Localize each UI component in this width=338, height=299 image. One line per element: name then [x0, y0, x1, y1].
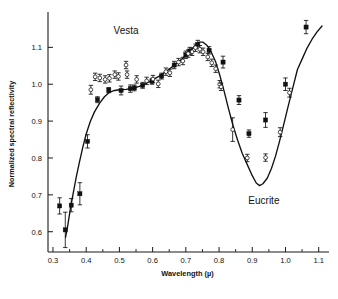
data-point-open	[151, 77, 155, 81]
data-point-open	[156, 82, 160, 86]
data-point-open	[125, 73, 129, 77]
data-point-filled	[85, 139, 89, 143]
data-point-open	[194, 46, 198, 50]
data-point-filled	[63, 228, 67, 232]
data-point-filled	[304, 25, 308, 29]
data-point-filled	[107, 88, 111, 92]
y-axis-title: Normalized spectral reflectivity	[7, 81, 16, 187]
data-point-open	[93, 75, 97, 79]
data-point-open	[117, 75, 121, 79]
data-point-open	[264, 156, 268, 160]
x-tick-label: 0.6	[147, 256, 158, 265]
series-vesta	[57, 20, 308, 247]
x-axis-title: Wavelength (µ)	[161, 269, 214, 278]
data-point-filled	[263, 118, 267, 122]
annotation-group: VestaEucrite	[114, 25, 280, 206]
data-point-open	[186, 52, 190, 56]
data-point-filled	[128, 87, 132, 91]
data-point-open	[181, 59, 185, 63]
data-point-filled	[221, 60, 225, 64]
x-tick-label: 1.0	[280, 256, 291, 265]
data-point-filled	[172, 63, 176, 67]
y-tick-label: 1.0	[31, 80, 42, 89]
data-point-open	[231, 128, 235, 132]
annotation-eucrite-label: Eucrite	[248, 195, 280, 206]
data-point-filled	[159, 74, 163, 78]
x-tick-label: 0.5	[114, 256, 125, 265]
data-point-filled	[247, 132, 251, 136]
data-point-filled	[119, 88, 123, 92]
eucrite-fit-curve	[66, 26, 322, 237]
x-tick-label: 1.1	[313, 256, 324, 265]
series-eucrite	[89, 44, 292, 162]
spectral-reflectivity-chart: 0.60.70.80.91.01.10.30.40.50.60.70.80.91…	[0, 0, 338, 299]
data-point-open	[210, 61, 214, 65]
axes-group: 0.60.70.80.91.01.10.30.40.50.60.70.80.91…	[7, 12, 329, 278]
y-tick-label: 0.6	[31, 228, 42, 237]
annotation-vesta-label: Vesta	[114, 25, 139, 36]
data-point-filled	[58, 204, 62, 208]
data-point-open	[145, 79, 149, 83]
data-point-open	[164, 70, 168, 74]
data-point-open	[103, 78, 107, 82]
data-point-open	[206, 55, 210, 59]
data-point-filled	[95, 98, 99, 102]
data-point-open	[124, 63, 128, 67]
y-tick-label: 0.7	[31, 191, 42, 200]
x-tick-label: 0.8	[214, 256, 225, 265]
data-point-open	[245, 156, 249, 160]
data-point-open	[177, 60, 181, 64]
data-point-open	[113, 73, 117, 77]
data-point-open	[168, 71, 172, 75]
data-point-open	[89, 88, 93, 92]
y-tick-label: 1.1	[31, 43, 42, 52]
data-point-open	[135, 78, 139, 82]
data-point-filled	[283, 82, 287, 86]
data-point-open	[98, 76, 102, 80]
data-point-filled	[237, 98, 241, 102]
data-point-filled	[69, 203, 73, 207]
y-tick-label: 0.8	[31, 154, 42, 163]
data-point-filled	[141, 83, 145, 87]
data-point-open	[201, 50, 205, 54]
data-point-filled	[132, 86, 136, 90]
x-tick-label: 0.9	[247, 256, 258, 265]
data-point-filled	[78, 192, 82, 196]
x-tick-label: 0.3	[48, 256, 59, 265]
y-tick-label: 0.9	[31, 117, 42, 126]
chart-canvas: 0.60.70.80.91.01.10.30.40.50.60.70.80.91…	[0, 0, 338, 299]
data-point-open	[108, 76, 112, 80]
x-tick-label: 0.4	[81, 256, 92, 265]
x-tick-label: 0.7	[181, 256, 192, 265]
data-point-open	[214, 67, 218, 71]
data-point-open	[288, 91, 292, 95]
data-point-open	[278, 130, 282, 134]
data-point-filled	[207, 48, 211, 52]
data-series-group	[57, 20, 308, 247]
fit-curve-group	[66, 26, 322, 237]
data-point-open	[219, 85, 223, 89]
